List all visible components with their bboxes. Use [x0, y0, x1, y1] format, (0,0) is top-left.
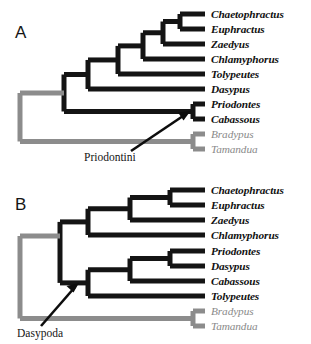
tip-label-priodontes: Priodontes — [211, 99, 260, 110]
tip-label-bradypus-b: Bradypus — [211, 306, 254, 317]
tip-label-group-b: Chaetophractus Euphractus Zaedyus Chlamy… — [0, 172, 311, 344]
clade-label-dasypoda: Dasypoda — [17, 328, 63, 340]
clade-label-priodontini: Priodontini — [84, 152, 136, 164]
tip-label-euphractus-b: Euphractus — [211, 200, 265, 211]
tip-label-priodontes-b: Priodontes — [211, 246, 260, 257]
tip-label-bradypus: Bradypus — [211, 129, 254, 140]
cladogram-panel-a: A — [0, 0, 311, 172]
tip-label-zaedyus-b: Zaedyus — [211, 215, 249, 226]
tip-label-euphractus: Euphractus — [211, 24, 265, 35]
tip-label-cabassous: Cabassous — [211, 114, 260, 125]
tip-label-tamandua: Tamandua — [211, 144, 258, 155]
tip-label-tolypeutes: Tolypeutes — [211, 69, 259, 80]
tip-label-dasypus-b: Dasypus — [211, 261, 250, 272]
tip-label-tamandua-b: Tamandua — [211, 321, 258, 332]
tip-label-tolypeutes-b: Tolypeutes — [211, 291, 259, 302]
tip-label-zaedyus: Zaedyus — [211, 39, 249, 50]
tip-label-chaetophractus-b: Chaetophractus — [211, 185, 284, 196]
tip-label-chlamyphorus: Chlamyphorus — [211, 54, 279, 65]
tip-label-group-a: Chaetophractus Euphractus Zaedyus Chlamy… — [0, 0, 311, 172]
tip-label-chaetophractus: Chaetophractus — [211, 9, 284, 20]
tip-label-chlamyphorus-b: Chlamyphorus — [211, 230, 279, 241]
tip-label-dasypus: Dasypus — [211, 84, 250, 95]
cladogram-panel-b: B — [0, 172, 311, 344]
tip-label-cabassous-b: Cabassous — [211, 276, 260, 287]
